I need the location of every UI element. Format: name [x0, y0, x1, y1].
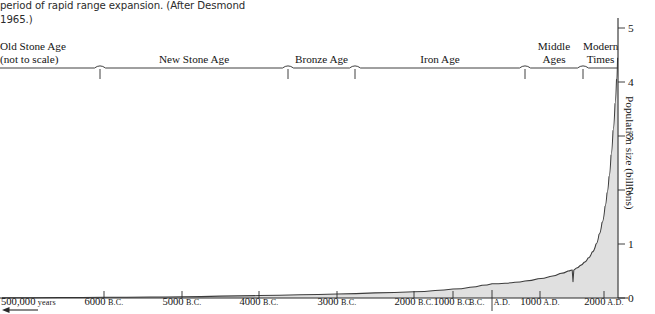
x-axis-label-4: 3000 B.C.: [317, 296, 356, 307]
x-axis-label-6: 1000 B.C.: [433, 296, 472, 307]
x-axis-label-1: 6000 B.C.: [84, 296, 123, 307]
x-axis-label-main-1: 6000: [84, 296, 105, 307]
x-axis-label-2: 5000 B.C.: [162, 296, 201, 307]
x-axis-label-main-5: 2000: [394, 296, 415, 307]
y-axis-label-2: 2: [628, 184, 634, 196]
y-axis-label-1: 1: [628, 238, 634, 250]
x-axis-label-era-4: B.C.: [339, 298, 357, 307]
x-axis-label-main-3: 4000: [239, 296, 260, 307]
x-axis-label-main-7: B.C.: [469, 298, 485, 307]
x-axis-label-8: 1000 A.D.: [520, 296, 560, 307]
y-axis-label-5: 5: [628, 22, 634, 34]
population-chart-svg: [0, 0, 655, 314]
x-axis-label-era-3: B.C.: [261, 298, 279, 307]
x-axis-label-main-0: 500,000: [1, 296, 35, 307]
x-axis-label-5: 2000 B.C.: [394, 296, 433, 307]
x-axis-label-era-8: A.D.: [541, 298, 559, 307]
x-axis-label-7: B.C.A.D.: [469, 296, 510, 307]
x-axis-label-main-6: 1000: [433, 296, 454, 307]
time-direction-arrow-icon: [2, 306, 38, 314]
x-axis-label-main-9: 2000: [584, 296, 605, 307]
population-curve: [2, 58, 618, 298]
x-axis-label-0: 500,000 years: [1, 296, 56, 307]
x-axis-label-main-8: 1000: [520, 296, 541, 307]
x-axis-label-era-9: A.D.: [605, 298, 623, 307]
x-axis-label-era-5: B.C.: [416, 298, 434, 307]
x-axis-label-era-1: B.C.: [106, 298, 124, 307]
x-axis-label-3: 4000 B.C.: [239, 296, 278, 307]
x-axis-label-main-4: 3000: [317, 296, 338, 307]
x-axis-label-ad: A.D.: [494, 298, 511, 307]
y-axis-label-4: 4: [628, 76, 634, 88]
x-axis-label-era-2: B.C.: [184, 298, 202, 307]
x-axis-label-main-2: 5000: [162, 296, 183, 307]
x-axis-label-9: 2000 A.D.: [584, 296, 624, 307]
x-axis-label-era-0: years: [35, 298, 55, 307]
y-axis-label-3: 3: [628, 130, 634, 142]
population-area-fill: [2, 58, 618, 298]
y-axis-label-0: 0: [628, 292, 634, 304]
